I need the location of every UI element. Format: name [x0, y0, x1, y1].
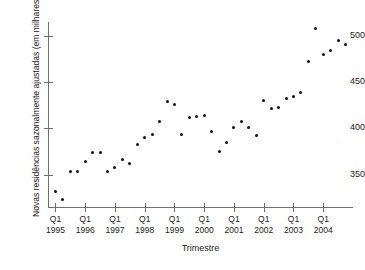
data-point	[292, 95, 295, 98]
plot-area	[0, 0, 365, 270]
data-point	[151, 133, 154, 136]
data-point	[54, 190, 57, 193]
data-point	[173, 103, 176, 106]
data-point	[225, 141, 228, 144]
data-point	[329, 49, 332, 52]
data-point	[136, 143, 139, 146]
data-point	[344, 43, 347, 46]
data-point	[277, 106, 280, 109]
data-point	[262, 99, 265, 102]
data-point	[322, 53, 325, 56]
data-point	[166, 100, 169, 103]
data-point	[240, 120, 243, 123]
data-point	[195, 115, 198, 118]
data-point	[121, 158, 124, 161]
data-point	[337, 39, 340, 42]
data-point	[307, 60, 310, 63]
data-point	[255, 134, 258, 137]
data-point	[232, 126, 235, 129]
data-point	[270, 107, 273, 110]
data-point	[247, 126, 250, 129]
data-point	[128, 162, 131, 165]
data-point	[91, 151, 94, 154]
data-point	[218, 150, 221, 153]
scatter-chart: Novas residências sazonalmente ajustadas…	[0, 0, 365, 270]
x-axis-title: Trimestre	[48, 243, 353, 253]
data-point	[203, 114, 206, 117]
data-point	[69, 170, 72, 173]
data-point	[210, 130, 213, 133]
data-point	[299, 91, 302, 94]
data-point	[76, 170, 79, 173]
data-point	[106, 170, 109, 173]
data-point	[99, 151, 102, 154]
data-point	[314, 27, 317, 30]
data-point	[61, 198, 64, 201]
data-point	[143, 136, 146, 139]
data-point	[158, 120, 161, 123]
data-point	[285, 97, 288, 100]
data-point	[188, 116, 191, 119]
data-point	[180, 133, 183, 136]
data-point	[113, 166, 116, 169]
data-point	[84, 160, 87, 163]
